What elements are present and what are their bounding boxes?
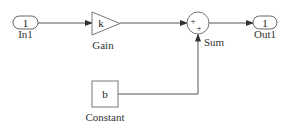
constant-label: Constant [85, 111, 124, 123]
sum-sign-left: + [190, 16, 195, 26]
sum-label: Sum [204, 36, 225, 48]
sum-block[interactable]: + + [187, 12, 209, 34]
in1-label: In1 [18, 28, 33, 40]
signal-constant-to-sum[interactable] [118, 35, 198, 95]
constant-value: b [102, 88, 108, 100]
in1-port-number: 1 [23, 17, 29, 29]
sum-sign-bottom: + [196, 23, 201, 33]
constant-block[interactable]: b [92, 81, 118, 107]
out1-label: Out1 [254, 28, 276, 40]
gain-block[interactable]: k [92, 12, 120, 35]
out1-port-number: 1 [262, 17, 268, 29]
block-diagram: 1 In1 k Gain + + Sum 1 Out1 b Constant [0, 0, 294, 127]
gain-label: Gain [92, 39, 114, 51]
gain-value: k [98, 17, 104, 29]
